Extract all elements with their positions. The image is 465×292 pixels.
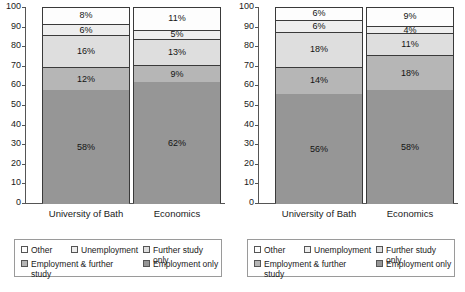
y-axis-tick-label: 40 xyxy=(0,120,21,129)
legend-swatch-unemployment-icon xyxy=(71,246,78,253)
bar-segment-value-label: 6% xyxy=(79,26,92,35)
bar-segment-unemployment[interactable]: 5% xyxy=(134,30,220,40)
y-axis-tick-label: 0 xyxy=(0,198,21,207)
bar-segment-emponly[interactable]: 62% xyxy=(134,82,220,204)
bar-segment-further[interactable]: 18% xyxy=(276,32,362,67)
legend-item-empfurther[interactable]: Employment & further study xyxy=(21,259,131,279)
bar-segment-empfurther[interactable]: 12% xyxy=(43,67,129,91)
bar-segment-value-label: 6% xyxy=(312,9,325,18)
legend-item-emponly[interactable]: Employment only xyxy=(376,259,451,269)
stacked-bar[interactable]: 11%5%13%9%62% xyxy=(133,7,221,203)
legend-item-empfurther[interactable]: Employment & further study xyxy=(254,259,364,279)
legend-swatch-unemployment-icon xyxy=(304,246,311,253)
bar-segment-value-label: 58% xyxy=(77,143,95,152)
bar-segment-unemployment[interactable]: 6% xyxy=(43,24,129,36)
chart-legend: OtherUnemploymentFurther study onlyEmplo… xyxy=(247,239,455,277)
bar-segment-other[interactable]: 6% xyxy=(276,8,362,20)
stacked-bar[interactable]: 6%6%18%14%56% xyxy=(275,7,363,203)
bar-segment-other[interactable]: 9% xyxy=(367,8,453,26)
y-axis-tick-mark xyxy=(255,125,258,126)
bar-segment-further[interactable]: 11% xyxy=(367,33,453,55)
chart-panel-left: 10090807060504030201008%6%16%12%58%Unive… xyxy=(0,0,232,292)
legend-item-label: Employment & further study xyxy=(264,259,360,279)
chart-panel-right: 10090807060504030201006%6%18%14%56%Unive… xyxy=(233,0,465,292)
bar-segment-empfurther[interactable]: 9% xyxy=(134,65,220,83)
x-axis-category-label: Economics xyxy=(346,208,465,219)
legend-item-unemployment[interactable]: Unemployment xyxy=(304,245,371,255)
y-axis-tick-label: 0 xyxy=(233,198,254,207)
y-axis-tick-mark xyxy=(255,66,258,67)
y-axis-tick-label: 90 xyxy=(0,22,21,31)
y-axis-tick-label: 80 xyxy=(233,41,254,50)
legend-swatch-further-icon xyxy=(143,246,150,253)
stacked-bar[interactable]: 8%6%16%12%58% xyxy=(42,7,130,203)
legend-item-label: Unemployment xyxy=(314,245,371,255)
bar-segment-value-label: 16% xyxy=(77,47,95,56)
legend-item-label: Employment & further study xyxy=(31,259,127,279)
y-axis-tick-label: 70 xyxy=(233,61,254,70)
y-axis-tick-mark xyxy=(22,164,25,165)
plot-area: 10090807060504030201008%6%16%12%58%Unive… xyxy=(0,0,232,210)
plot-area: 10090807060504030201006%6%18%14%56%Unive… xyxy=(233,0,465,210)
bar-segment-further[interactable]: 13% xyxy=(134,39,220,64)
bar-segment-value-label: 11% xyxy=(401,40,418,49)
bar-segment-empfurther[interactable]: 14% xyxy=(276,67,362,94)
y-axis-tick-label: 10 xyxy=(233,178,254,187)
y-axis-tick-mark xyxy=(22,46,25,47)
y-axis-tick-mark xyxy=(22,66,25,67)
bar-segment-emponly[interactable]: 58% xyxy=(367,90,453,204)
bar-segment-other[interactable]: 11% xyxy=(134,8,220,30)
legend-item-other[interactable]: Other xyxy=(21,245,52,255)
y-axis-tick-mark xyxy=(255,203,258,204)
legend-swatch-other-icon xyxy=(21,246,28,253)
bar-segment-value-label: 9% xyxy=(403,12,416,21)
y-axis-tick-mark xyxy=(255,7,258,8)
legend-item-label: Other xyxy=(264,245,285,255)
y-axis-tick-label: 100 xyxy=(0,2,21,11)
bar-segment-value-label: 14% xyxy=(310,76,328,85)
legend-item-label: Employment only xyxy=(153,259,218,269)
bar-segment-unemployment[interactable]: 6% xyxy=(276,20,362,32)
y-axis-tick-mark xyxy=(255,27,258,28)
y-axis-tick-label: 50 xyxy=(0,100,21,109)
bar-segment-value-label: 62% xyxy=(168,139,186,148)
y-axis-tick-mark xyxy=(255,105,258,106)
y-axis-tick-mark xyxy=(255,183,258,184)
legend-swatch-further-icon xyxy=(376,246,383,253)
y-axis-tick-mark xyxy=(255,46,258,47)
bar-segment-emponly[interactable]: 58% xyxy=(43,90,129,204)
bar-segment-emponly[interactable]: 56% xyxy=(276,94,362,204)
y-axis-tick-label: 90 xyxy=(233,22,254,31)
y-axis-tick-label: 30 xyxy=(233,139,254,148)
y-axis-tick-mark xyxy=(255,144,258,145)
bar-segment-value-label: 11% xyxy=(168,14,185,23)
y-axis-tick-mark xyxy=(22,27,25,28)
bar-segment-value-label: 13% xyxy=(168,48,186,57)
legend-item-unemployment[interactable]: Unemployment xyxy=(71,245,138,255)
bar-segment-value-label: 18% xyxy=(401,69,419,78)
bar-segment-value-label: 58% xyxy=(401,143,419,152)
bar-segment-other[interactable]: 8% xyxy=(43,8,129,24)
bar-segment-value-label: 8% xyxy=(79,11,92,20)
y-axis-line xyxy=(258,7,259,204)
legend-item-other[interactable]: Other xyxy=(254,245,285,255)
legend-item-label: Unemployment xyxy=(81,245,138,255)
legend-swatch-other-icon xyxy=(254,246,261,253)
y-axis-tick-label: 10 xyxy=(0,178,21,187)
stacked-bar[interactable]: 9%4%11%18%58% xyxy=(366,7,454,203)
bar-segment-value-label: 12% xyxy=(77,75,95,84)
legend-item-emponly[interactable]: Employment only xyxy=(143,259,218,269)
y-axis-line xyxy=(25,7,26,204)
bar-segment-further[interactable]: 16% xyxy=(43,35,129,66)
y-axis-tick-mark xyxy=(22,125,25,126)
y-axis-tick-mark xyxy=(22,7,25,8)
y-axis-tick-label: 80 xyxy=(0,41,21,50)
x-axis-category-label: Economics xyxy=(113,208,241,219)
bar-segment-value-label: 56% xyxy=(310,145,328,154)
y-axis-tick-mark xyxy=(22,183,25,184)
legend-item-label: Other xyxy=(31,245,52,255)
y-axis-tick-mark xyxy=(22,144,25,145)
bar-segment-empfurther[interactable]: 18% xyxy=(367,55,453,90)
bar-segment-unemployment[interactable]: 4% xyxy=(367,26,453,34)
legend-swatch-empfurther-icon xyxy=(254,260,261,267)
